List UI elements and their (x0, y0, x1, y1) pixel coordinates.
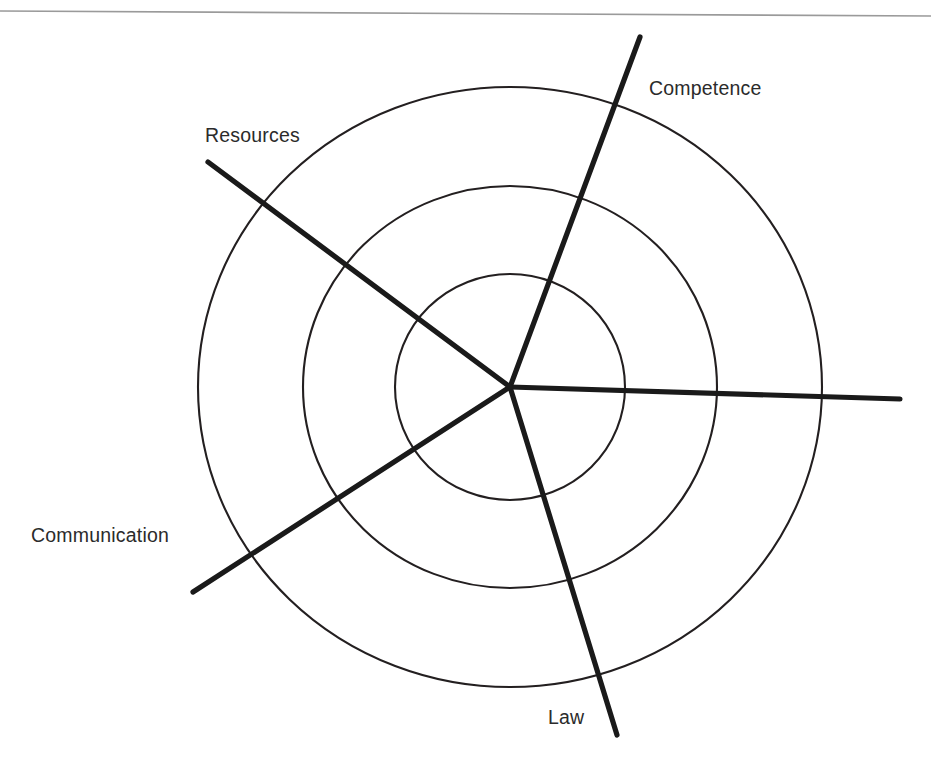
axis-right-unlabeled-spoke[interactable] (510, 387, 900, 399)
top-divider-rule (0, 11, 931, 16)
diagram-page: Competence Resources Communication Law (0, 0, 931, 772)
axis-label-competence: Competence (649, 79, 762, 99)
axis-resources-spoke[interactable] (208, 162, 510, 387)
axis-label-law: Law (548, 708, 584, 728)
axis-competence-spoke[interactable] (510, 37, 640, 387)
radar-diagram (0, 0, 931, 772)
axis-label-communication: Communication (31, 526, 169, 546)
axis-label-resources: Resources (205, 126, 300, 146)
